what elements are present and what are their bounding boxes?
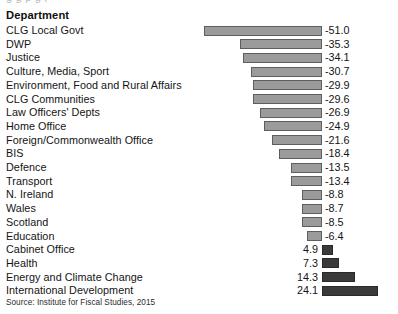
bar-row: Energy and Climate Change14.3	[0, 271, 398, 285]
department-label: CLG Local Govt	[6, 24, 84, 38]
bar-value-label: -34.1	[325, 51, 350, 65]
department-label: Culture, Media, Sport	[6, 65, 109, 79]
bar-negative	[279, 149, 322, 159]
bar-row: N. Ireland-8.8	[0, 188, 398, 202]
bar-value-label: -51.0	[325, 24, 350, 38]
department-spending-change-chart: g g p g , Department CLG Local Govt-51.0…	[0, 0, 398, 314]
department-label: International Development	[6, 284, 133, 298]
bar-row: Cabinet Office4.9	[0, 243, 398, 257]
bar-value-label: -8.5	[325, 216, 344, 230]
bar-negative	[307, 231, 322, 241]
department-label: Cabinet Office	[6, 243, 75, 257]
bar-row: CLG Communities-29.6	[0, 93, 398, 107]
bar-negative	[264, 121, 322, 131]
department-label: Energy and Climate Change	[6, 271, 143, 285]
bar-value-label: -29.9	[325, 79, 350, 93]
bar-value-label: 4.9	[264, 243, 318, 257]
department-label: Defence	[6, 161, 47, 175]
bar-row: Wales-8.7	[0, 202, 398, 216]
bar-row: BIS-18.4	[0, 147, 398, 161]
bar-value-label: -24.9	[325, 120, 350, 134]
bar-row: Justice-34.1	[0, 51, 398, 65]
bar-value-label: 7.3	[264, 257, 318, 271]
plot-area: CLG Local Govt-51.0DWP-35.3Justice-34.1C…	[0, 24, 398, 292]
bar-row: CLG Local Govt-51.0	[0, 24, 398, 38]
department-label: Justice	[6, 51, 40, 65]
department-label: Foreign/Commonwealth Office	[6, 134, 153, 148]
bar-positive	[322, 272, 355, 282]
department-label: Transport	[6, 175, 52, 189]
bar-value-label: -18.4	[325, 147, 350, 161]
department-label: Home Office	[6, 120, 66, 134]
cropped-text-sliver: g g p g ,	[0, 0, 398, 7]
bar-row: DWP-35.3	[0, 38, 398, 52]
bar-value-label: 14.3	[264, 271, 318, 285]
bar-value-label: -35.3	[325, 38, 350, 52]
department-label: Education	[6, 230, 54, 244]
department-label: Health	[6, 257, 38, 271]
bar-row: Environment, Food and Rural Affairs-29.9	[0, 79, 398, 93]
bar-negative	[291, 163, 322, 173]
bar-positive	[322, 245, 333, 255]
bar-row: Law Officers' Depts-26.9	[0, 106, 398, 120]
source-note: Source: Institute for Fiscal Studies, 20…	[6, 298, 155, 307]
bar-negative	[253, 80, 322, 90]
bar-value-label: -13.5	[325, 161, 350, 175]
bar-negative	[272, 135, 322, 145]
column-header-department: Department	[6, 9, 69, 21]
bar-negative	[260, 108, 322, 118]
department-label: CLG Communities	[6, 93, 95, 107]
bar-value-label: -30.7	[325, 65, 350, 79]
department-label: Scotland	[6, 216, 48, 230]
bar-row: Transport-13.4	[0, 175, 398, 189]
department-label: Environment, Food and Rural Affairs	[6, 79, 182, 93]
bar-row: Health7.3	[0, 257, 398, 271]
bar-negative	[240, 39, 322, 49]
bar-negative	[302, 204, 322, 214]
bar-positive	[322, 286, 378, 296]
bar-row: Culture, Media, Sport-30.7	[0, 65, 398, 79]
department-label: N. Ireland	[6, 188, 53, 202]
bar-negative	[291, 176, 322, 186]
bar-negative	[204, 26, 322, 36]
cropped-text-sliver-label: g g p g ,	[6, 0, 48, 3]
bar-value-label: -8.7	[325, 202, 344, 216]
bar-positive	[322, 258, 339, 268]
bar-value-label: -13.4	[325, 175, 350, 189]
bar-row: Education-6.4	[0, 230, 398, 244]
bar-row: Scotland-8.5	[0, 216, 398, 230]
department-label: DWP	[6, 38, 31, 52]
bar-row: Defence-13.5	[0, 161, 398, 175]
bar-value-label: -6.4	[325, 230, 344, 244]
bar-value-label: -8.8	[325, 188, 344, 202]
department-label: Law Officers' Depts	[6, 106, 100, 120]
bar-value-label: 24.1	[264, 284, 318, 298]
department-label: BIS	[6, 147, 24, 161]
bar-value-label: -21.6	[325, 134, 350, 148]
bar-row: Home Office-24.9	[0, 120, 398, 134]
bar-value-label: -29.6	[325, 93, 350, 107]
bar-negative	[253, 94, 322, 104]
bar-negative	[302, 217, 322, 227]
bar-row: Foreign/Commonwealth Office-21.6	[0, 134, 398, 148]
bar-negative	[243, 53, 322, 63]
bar-negative	[302, 190, 322, 200]
bar-row: International Development24.1	[0, 284, 398, 298]
department-label: Wales	[6, 202, 36, 216]
bar-negative	[251, 67, 322, 77]
bar-value-label: -26.9	[325, 106, 350, 120]
